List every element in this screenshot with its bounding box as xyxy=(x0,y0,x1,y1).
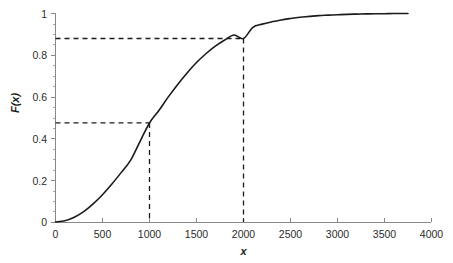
cdf-chart: 0 0.2 0.4 0.6 0.8 1 0 500 1000 1500 2000… xyxy=(0,0,453,263)
y-tick-label: 0 xyxy=(41,216,47,228)
x-tick-label: 500 xyxy=(94,228,112,240)
y-tick-label: 0.4 xyxy=(32,133,47,145)
x-tick-label: 1000 xyxy=(138,228,162,240)
x-tick-label: 2000 xyxy=(232,228,256,240)
x-tick-label: 3500 xyxy=(373,228,397,240)
y-axis-tick-labels: 0 0.2 0.4 0.6 0.8 1 xyxy=(32,8,47,229)
y-axis-title: F(x) xyxy=(9,93,21,114)
x-tick-label: 3000 xyxy=(326,228,350,240)
x-axis-tick-labels: 0 500 1000 1500 2000 2500 3000 3500 4000 xyxy=(53,228,444,240)
y-tick-label: 0.8 xyxy=(32,49,47,61)
x-tick-label: 0 xyxy=(53,228,59,240)
y-tick-label: 0.2 xyxy=(32,175,47,187)
chart-plot-area: 0 0.2 0.4 0.6 0.8 1 0 500 1000 1500 2000… xyxy=(0,0,453,263)
x-axis-title: x xyxy=(239,245,247,257)
y-tick-label: 0.6 xyxy=(32,91,47,103)
x-tick-label: 4000 xyxy=(420,228,444,240)
guide-lines-group xyxy=(56,39,244,222)
y-axis-minor-ticks xyxy=(53,24,56,212)
y-tick-label: 1 xyxy=(41,8,47,20)
x-tick-label: 2500 xyxy=(279,228,303,240)
x-tick-label: 1500 xyxy=(185,228,209,240)
cdf-curve xyxy=(56,13,409,222)
